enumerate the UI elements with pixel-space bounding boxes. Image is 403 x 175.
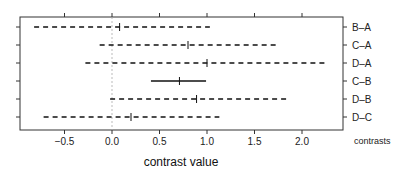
y-tick-label: C–B bbox=[352, 76, 372, 87]
interval-row-d-a bbox=[85, 59, 325, 67]
x-tick-label: 0.5 bbox=[153, 136, 167, 147]
x-tick-label: 1.0 bbox=[200, 136, 214, 147]
y-axis: B–AC–AD–AC–BD–BD–C bbox=[16, 22, 372, 123]
interval-row-d-b bbox=[110, 95, 287, 103]
x-axis: −0.50.00.51.01.52.0 bbox=[55, 13, 310, 147]
interval-row-b-a bbox=[34, 23, 210, 31]
x-tick-label: 1.5 bbox=[248, 136, 262, 147]
panel-border bbox=[20, 17, 343, 130]
y-axis-title: contrasts bbox=[354, 136, 391, 146]
interval-row-c-a bbox=[100, 41, 278, 49]
x-axis-title: contrast value bbox=[144, 155, 219, 169]
y-tick-label: D–B bbox=[352, 94, 372, 105]
y-tick-label: D–C bbox=[352, 112, 372, 123]
y-tick-label: D–A bbox=[352, 58, 372, 69]
interval-row-c-b bbox=[151, 77, 206, 85]
y-tick-label: B–A bbox=[352, 22, 371, 33]
y-tick-label: C–A bbox=[352, 40, 372, 51]
contrast-interval-chart: −0.50.00.51.01.52.0 B–AC–AD–AC–BD–BD–C c… bbox=[0, 0, 403, 175]
plot-panel bbox=[20, 17, 343, 130]
interval-rows bbox=[34, 23, 326, 121]
x-tick-label: 2.0 bbox=[295, 136, 309, 147]
interval-row-d-c bbox=[44, 113, 220, 121]
x-tick-label: 0.0 bbox=[105, 136, 119, 147]
x-tick-label: −0.5 bbox=[55, 136, 75, 147]
